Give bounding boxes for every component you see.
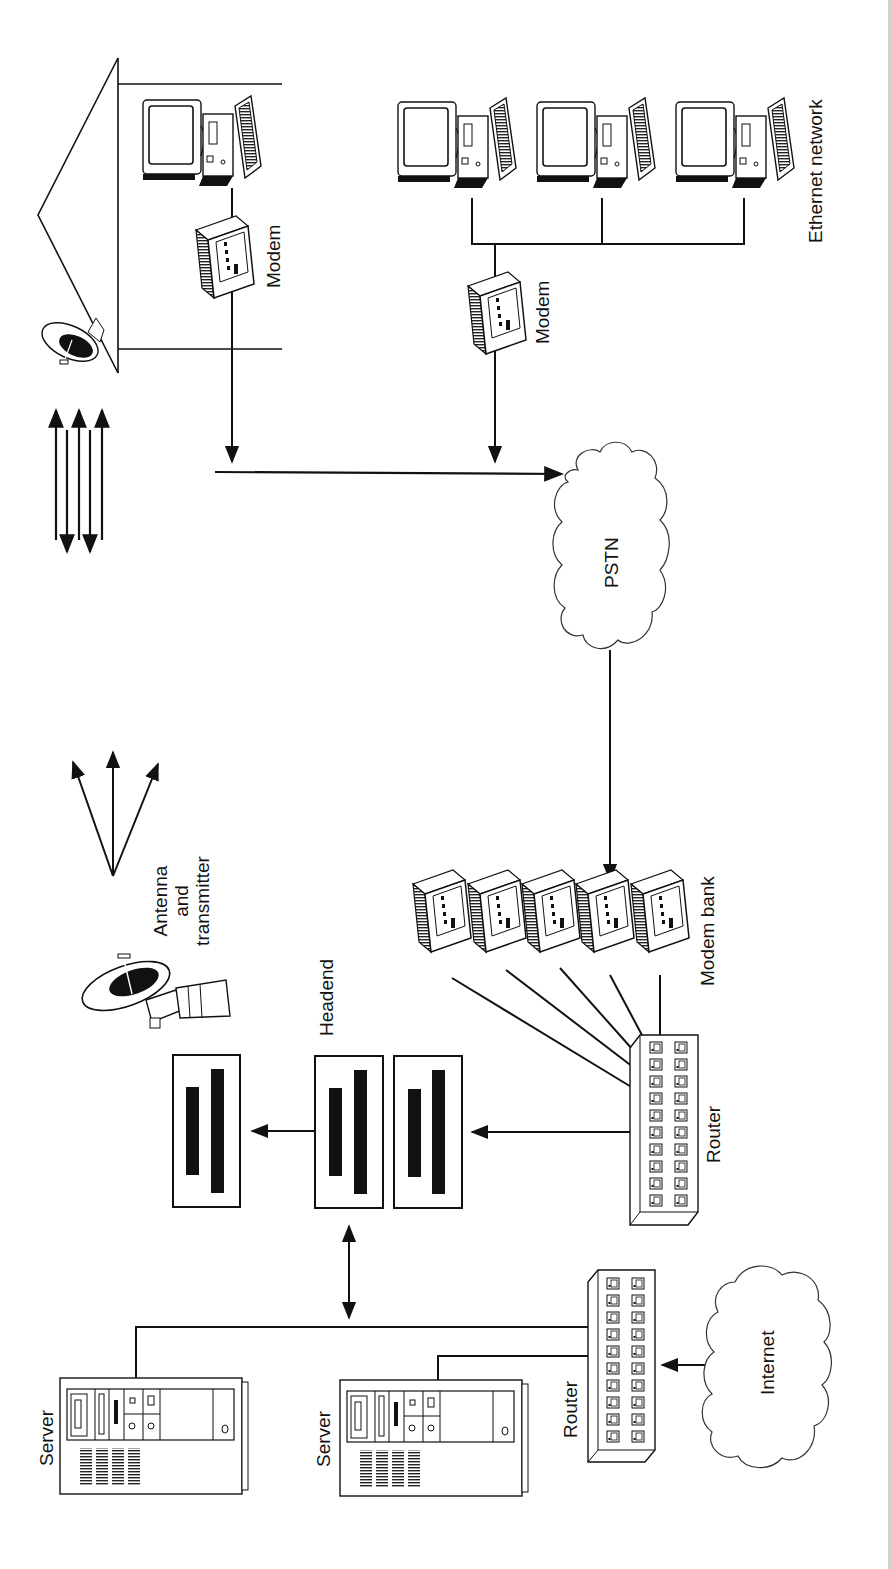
lan-pc-icon <box>398 98 516 188</box>
router-internet-icon <box>588 1270 655 1462</box>
lan-pc-icon <box>676 98 794 188</box>
home-modem-label: Modem <box>264 225 283 288</box>
antenna-transmitter-label: Antenna and transmitter <box>150 847 213 955</box>
headend-unit-transmit <box>173 1055 240 1207</box>
headend-unit-receive <box>394 1056 462 1208</box>
antenna-transmitter-icon <box>76 951 230 1028</box>
ethernet-network-label: Ethernet network <box>806 99 825 243</box>
bidirectional-arrows-icon <box>56 410 102 552</box>
antenna-label-line-1: Antenna <box>150 847 171 955</box>
router-main-icon <box>630 1035 698 1225</box>
home-modem-icon <box>196 216 254 298</box>
server-bus-2 <box>438 1356 588 1380</box>
lan-modem-label: Modem <box>533 281 552 344</box>
server-1-icon <box>60 1378 248 1494</box>
server-2-label: Server <box>314 1411 333 1467</box>
router-main-label: Router <box>704 1106 723 1163</box>
ethernet-lan <box>398 98 794 244</box>
pstn-label: PSTN <box>602 537 621 588</box>
server-2-icon <box>340 1380 528 1496</box>
broadcast-arrows-icon <box>73 752 158 876</box>
modem-bank-label: Modem bank <box>698 876 717 986</box>
antenna-label-line-2: and <box>171 847 192 955</box>
server-bus-1 <box>136 1327 588 1378</box>
router-internet-label: Router <box>561 1381 580 1438</box>
server-1-label: Server <box>37 1410 56 1466</box>
headend-label: Headend <box>317 959 336 1036</box>
lan-modem-icon <box>468 272 526 354</box>
lan-pc-icon <box>537 98 655 188</box>
antenna-label-line-3: transmitter <box>192 847 213 955</box>
home-pc-icon <box>143 96 261 186</box>
pstn-uplink <box>215 472 562 474</box>
internet-label: Internet <box>758 1331 777 1395</box>
network-diagram: Modem Modem Ethernet network PSTN Antenn… <box>0 0 891 1569</box>
headend-unit-main <box>315 1056 383 1208</box>
satellite-dish-icon <box>36 315 104 369</box>
